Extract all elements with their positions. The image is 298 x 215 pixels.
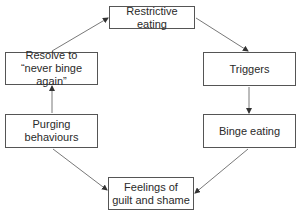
node-resolve: Resolve to “never binge again” — [5, 52, 98, 85]
arrow-resolve-to-restrictive — [52, 18, 108, 51]
arrow-binge-to-guilt — [195, 149, 248, 193]
node-binge-eating: Binge eating — [203, 114, 296, 148]
node-label: Triggers — [230, 63, 270, 76]
node-label: Purging behaviours — [6, 118, 97, 144]
arrow-restrictive-to-triggers — [196, 18, 248, 51]
node-label: Feelings of guilt and shame — [112, 181, 190, 207]
node-triggers: Triggers — [203, 52, 296, 86]
node-purging-behaviours: Purging behaviours — [5, 114, 98, 148]
node-restrictive-eating: Restrictive eating — [109, 6, 195, 29]
node-label: Resolve to “never binge again” — [6, 49, 97, 88]
node-label: Restrictive eating — [110, 5, 194, 31]
node-guilt-and-shame: Feelings of guilt and shame — [108, 177, 194, 210]
node-label: Binge eating — [219, 125, 280, 138]
arrow-purging-to-guilt — [53, 149, 107, 190]
